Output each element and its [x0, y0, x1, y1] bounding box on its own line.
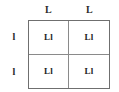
punnett-cell-r1c2: Ll — [69, 21, 109, 55]
row-header-1: l — [2, 20, 26, 55]
punnett-grid: Ll Ll Ll Ll — [28, 20, 110, 89]
punnett-square: L L l l Ll Ll Ll Ll — [0, 0, 119, 92]
column-header-1: L — [28, 1, 69, 19]
row-header-column: l l — [2, 20, 26, 89]
column-header-row: L L — [28, 1, 110, 19]
row-header-2: l — [2, 55, 26, 90]
punnett-cell-r2c2: Ll — [69, 55, 109, 89]
punnett-cell-r1c1: Ll — [29, 21, 69, 55]
punnett-cell-r2c1: Ll — [29, 55, 69, 89]
column-header-2: L — [69, 1, 110, 19]
